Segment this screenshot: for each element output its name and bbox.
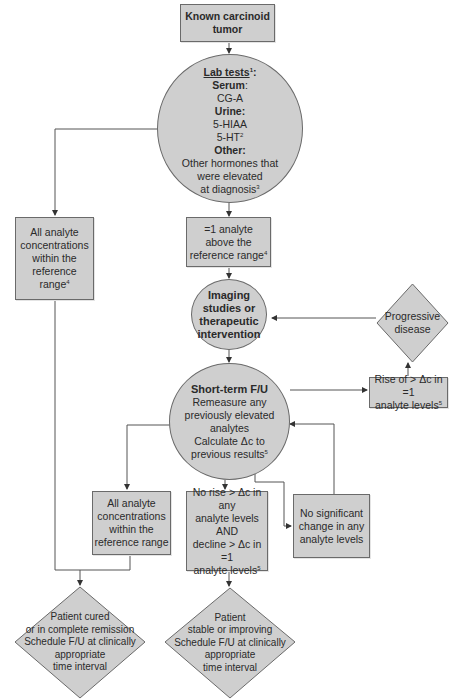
line: appropriate [55, 649, 106, 662]
patient-cured-node: Patient cured or in complete remission S… [14, 586, 146, 699]
urine-label: Urine: [215, 105, 245, 118]
serum-label: Serum: [212, 79, 248, 92]
line: AND [216, 525, 238, 538]
line: reference range [94, 536, 168, 549]
line: Imaging [208, 289, 250, 302]
short-term-title: Short-term F/U [191, 383, 268, 396]
footnote-3: 3 [256, 183, 259, 189]
urine-value-1: 5-HIAA [213, 118, 247, 131]
line-text: reference range [32, 265, 76, 290]
line: Schedule F/U at clinically [24, 636, 136, 649]
line-text: previous results [191, 448, 265, 460]
footnote-5: 5 [257, 564, 260, 570]
lab-tests-title-text: Lab tests [204, 66, 250, 78]
line: time interval [53, 661, 107, 674]
other-line-3-text: at diagnosis [200, 183, 256, 195]
rise-delta-node: Rise of > Δc in =1 analyte levels5 [369, 377, 448, 408]
line: Remeasure any [192, 396, 266, 409]
line: analytes [210, 422, 249, 435]
footnote-4: 4 [66, 279, 69, 285]
line: intervention [198, 328, 261, 341]
line: within the [32, 252, 76, 265]
line: No rise > Δc in any [187, 486, 267, 512]
other-line-3: at diagnosis3 [200, 183, 259, 196]
urine-value-2-text: 5-HT [217, 131, 240, 143]
line: Calculate Δc to [194, 435, 265, 448]
no-rise-decline-node: No rise > Δc in any analyte levels AND d… [186, 491, 268, 571]
line: previous results5 [191, 448, 268, 461]
other-label: Other: [214, 144, 246, 157]
all-within-range-top-node: All analyte concentrations within the re… [15, 217, 94, 300]
line: analyte levels5 [375, 399, 442, 412]
line: analyte levels5 [194, 564, 261, 577]
line: appropriate [205, 649, 256, 662]
footnote-2: 2 [240, 131, 243, 137]
one-analyte-above-node: =1 analyte above the reference range4 [186, 217, 271, 267]
other-line-2: were elevated [197, 170, 262, 183]
serum-label-text: Serum [212, 79, 245, 91]
line: reference range4 [190, 249, 267, 262]
line: Rise of > Δc in =1 [370, 373, 447, 399]
no-significant-change-node: No significant change in any analyte lev… [293, 494, 370, 558]
urine-value-2: 5-HT2 [217, 131, 244, 144]
line: Patient [214, 612, 245, 625]
line: or in complete remission [26, 624, 134, 637]
line: All analyte [107, 497, 155, 510]
line: within the [109, 523, 153, 536]
line: concentrations [97, 510, 165, 523]
line: studies or [203, 302, 256, 315]
lab-tests-node: Lab tests1: Serum: CG-A Urine: 5-HIAA 5-… [157, 54, 303, 203]
line: above the [205, 236, 251, 249]
progressive-text: Progressive disease [376, 283, 449, 363]
line: analyte levels [300, 533, 364, 546]
lab-tests-title: Lab tests1: [204, 66, 257, 79]
short-term-fu-node: Short-term F/U Remeasure any previously … [169, 363, 290, 480]
line-text: reference range [190, 249, 264, 261]
start-line-2: tumor [213, 23, 243, 36]
line: concentrations [20, 239, 88, 252]
line: Schedule F/U at clinically [174, 637, 286, 650]
carcinoid-flowchart: Known carcinoid tumor Lab tests1: Serum:… [0, 0, 459, 699]
patient-stable-node: Patient stable or improving Schedule F/U… [164, 587, 296, 699]
line: stable or improving [188, 624, 272, 637]
line: All analyte [30, 226, 78, 239]
line: Patient cured [51, 611, 110, 624]
line: Progressive [385, 310, 440, 323]
line-text: analyte levels [375, 399, 439, 411]
line: disease [394, 323, 430, 336]
line: decline > Δc in =1 [187, 538, 267, 564]
serum-colon: : [245, 79, 248, 91]
footnote-5: 5 [439, 400, 442, 406]
footnote-5: 5 [265, 448, 268, 454]
line: reference range4 [16, 265, 93, 291]
line: therapeutic [199, 315, 258, 328]
line: change in any [299, 520, 364, 533]
other-line-1: Other hormones that [182, 157, 278, 170]
line-text: analyte levels [194, 564, 258, 576]
start-node-known-carcinoid: Known carcinoid tumor [180, 4, 275, 42]
line: analyte levels [195, 512, 259, 525]
all-within-range-bottom-node: All analyte concentrations within the re… [92, 491, 171, 555]
cured-text: Patient cured or in complete remission S… [14, 586, 146, 699]
stable-text: Patient stable or improving Schedule F/U… [164, 587, 296, 699]
start-line-1: Known carcinoid [185, 10, 270, 23]
lab-tests-colon: : [253, 66, 257, 78]
imaging-intervention-node: Imaging studies or therapeutic intervent… [191, 279, 267, 350]
line: previously elevated [185, 409, 275, 422]
serum-value: CG-A [217, 92, 243, 105]
footnote-4: 4 [264, 249, 267, 255]
progressive-disease-node: Progressive disease [376, 283, 449, 363]
line: =1 analyte [204, 223, 253, 236]
line: No significant [300, 507, 363, 520]
line: time interval [203, 662, 257, 675]
